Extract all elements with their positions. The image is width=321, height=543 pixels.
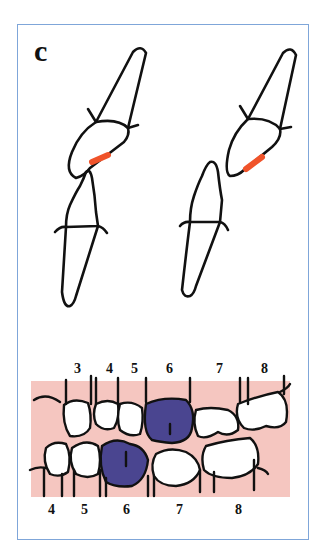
- upper-label-4: 4: [106, 362, 113, 376]
- upper-tooth-5: [118, 403, 143, 436]
- right-contact-mark: [246, 157, 262, 169]
- lower-label-6: 6: [123, 503, 130, 517]
- upper-tooth-6: [145, 399, 193, 443]
- lower-label-7: 7: [176, 503, 183, 517]
- lower-label-8: 8: [235, 503, 242, 517]
- upper-label-6: 6: [166, 362, 173, 376]
- lower-label-5: 5: [81, 503, 88, 517]
- upper-tooth-3: [64, 400, 91, 436]
- upper-label-3: 3: [74, 362, 81, 376]
- left-contact-mark: [92, 155, 108, 162]
- tooth-diagram: [0, 0, 321, 543]
- upper-label-5: 5: [131, 362, 138, 376]
- lower-tooth-6: [101, 440, 148, 486]
- upper-label-7: 7: [216, 362, 223, 376]
- right-lower-incisor: [180, 162, 228, 297]
- lower-tooth-4: [45, 443, 70, 476]
- upper-label-8: 8: [261, 362, 268, 376]
- upper-tooth-4: [94, 401, 119, 429]
- upper-tooth-7: [194, 408, 238, 437]
- lower-tooth-8: [202, 438, 258, 478]
- left-lower-incisor: [55, 171, 107, 306]
- lower-label-4: 4: [48, 503, 55, 517]
